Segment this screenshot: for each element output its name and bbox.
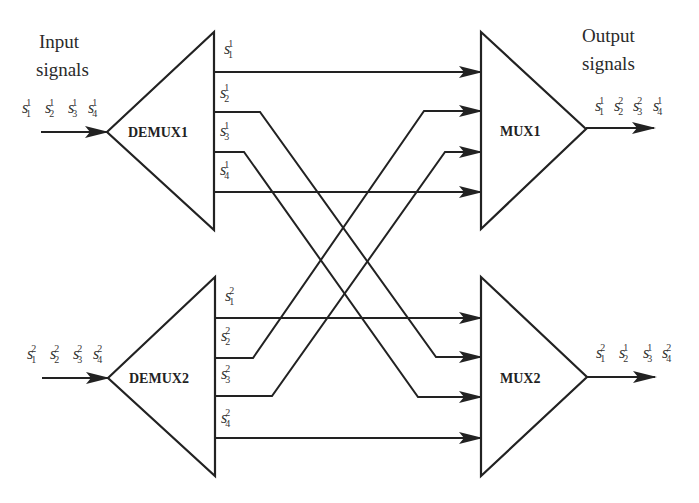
svg-text:s21: s21 — [225, 285, 234, 307]
svg-text:s13: s13 — [68, 97, 77, 119]
connections — [214, 72, 481, 438]
svg-text:s11: s11 — [595, 95, 604, 117]
mux2-label: MUX2 — [500, 371, 540, 386]
svg-text:s23: s23 — [73, 343, 82, 365]
mux1-label: MUX1 — [500, 124, 540, 139]
svg-text:s13: s13 — [643, 342, 652, 364]
svg-text:s23: s23 — [633, 95, 642, 117]
demux1-port-labels: s11 s12 s13 s14 — [220, 38, 233, 181]
svg-text:s13: s13 — [220, 120, 229, 142]
input-title-line2: signals — [36, 59, 89, 80]
svg-text:s22: s22 — [614, 95, 623, 117]
demux2-label: DEMUX2 — [129, 371, 189, 386]
svg-text:s23: s23 — [221, 363, 230, 385]
svg-text:s21: s21 — [27, 343, 36, 365]
svg-text:s21: s21 — [596, 342, 605, 364]
demux1-input-signals: s11 s12 s13 s14 — [22, 97, 97, 119]
mux1-output-signals: s11 s22 s23 s14 — [595, 95, 662, 117]
svg-text:s11: s11 — [224, 38, 233, 60]
svg-text:s24: s24 — [662, 342, 671, 364]
svg-text:s12: s12 — [220, 82, 229, 104]
link-s3-1-to-mux2 — [214, 152, 481, 397]
mux2-output-signals: s21 s12 s13 s24 — [596, 342, 671, 364]
input-title-line1: Input — [39, 31, 80, 52]
svg-text:s14: s14 — [653, 95, 662, 117]
svg-text:s24: s24 — [93, 343, 102, 365]
demux2-input-signals: s21 s22 s23 s24 — [27, 343, 102, 365]
link-s2-1-to-mux2 — [214, 112, 481, 357]
svg-text:s12: s12 — [619, 342, 628, 364]
svg-text:s22: s22 — [221, 325, 230, 347]
svg-text:s24: s24 — [221, 407, 230, 429]
output-title-line2: signals — [582, 53, 635, 74]
svg-text:s14: s14 — [220, 159, 229, 181]
link-s3-2-to-mux1 — [215, 152, 481, 396]
svg-text:s22: s22 — [50, 343, 59, 365]
wdm-diagram: Input signals Output signals s11 s12 s13… — [0, 0, 699, 503]
demux1-label: DEMUX1 — [128, 125, 188, 140]
svg-text:s11: s11 — [22, 97, 31, 119]
output-title-line1: Output — [582, 25, 636, 46]
svg-text:s12: s12 — [45, 97, 54, 119]
svg-text:s14: s14 — [88, 97, 97, 119]
